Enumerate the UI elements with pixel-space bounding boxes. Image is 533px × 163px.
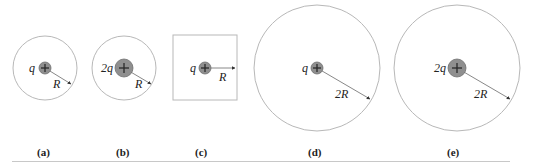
radius-label: R	[218, 70, 227, 84]
radius-label: R	[134, 77, 143, 91]
panel-c: q R (c)	[173, 35, 237, 159]
panel-a: q R (a)	[13, 36, 77, 159]
panel-caption: (b)	[116, 146, 130, 159]
gauss-law-figure: q R (a) 2q R (b) q R (c)	[0, 0, 533, 163]
panel-d: q 2R (d)	[254, 5, 380, 159]
panel-caption: (a)	[37, 146, 50, 159]
radius-label: 2R	[474, 87, 488, 101]
panel-e: 2q 2R (e)	[394, 5, 520, 159]
charge-label: q	[190, 61, 196, 75]
radius-label: R	[52, 77, 61, 91]
panel-caption: (e)	[447, 146, 460, 159]
charge-label: 2q	[101, 61, 113, 75]
panel-b: 2q R (b)	[92, 36, 156, 159]
charge-label: 2q	[434, 61, 446, 75]
panel-caption: (c)	[195, 146, 208, 159]
radius-label: 2R	[335, 87, 349, 101]
panel-caption: (d)	[308, 146, 322, 159]
charge-label: q	[302, 61, 308, 75]
charge-label: q	[29, 61, 35, 75]
